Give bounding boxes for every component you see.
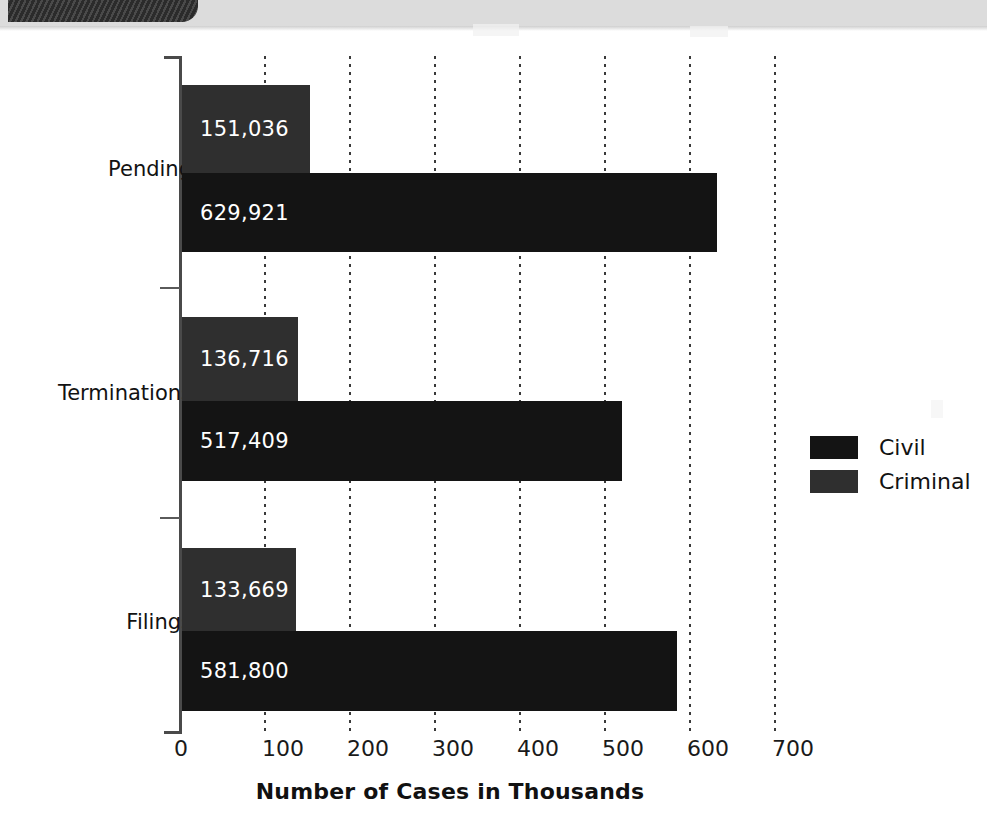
bar-value-label: 136,716: [200, 347, 289, 371]
axis-cap-top: [164, 56, 180, 59]
category-separator-tick: [160, 287, 180, 289]
bar-value-label: 133,669: [200, 578, 289, 602]
xtick-label-600: 600: [687, 736, 729, 761]
bar-terminations-civil[interactable]: 517,409: [182, 401, 622, 481]
bar-value-label: 151,036: [200, 117, 289, 141]
bar-value-label: 629,921: [200, 201, 289, 225]
xtick-label-700: 700: [772, 736, 814, 761]
legend-swatch-icon: [810, 470, 858, 493]
xtick-label-200: 200: [347, 736, 389, 761]
bar-terminations-criminal[interactable]: 136,716: [182, 317, 298, 401]
legend-swatch-icon: [810, 436, 858, 459]
xtick-label-400: 400: [517, 736, 559, 761]
axis-cap-bottom: [164, 731, 180, 734]
x-axis-title: Number of Cases in Thousands: [0, 779, 900, 804]
horizontal-bar-chart: Pending 151,036 629,921 Terminations 136…: [0, 0, 987, 834]
xtick-label-100: 100: [262, 736, 304, 761]
gridline-700: [774, 56, 776, 734]
gridline-600: [689, 56, 691, 734]
bar-pending-criminal[interactable]: 151,036: [182, 85, 310, 173]
bar-value-label: 581,800: [200, 659, 289, 683]
category-separator-tick: [160, 517, 180, 519]
legend-label: Civil: [879, 435, 926, 460]
xtick-label-300: 300: [432, 736, 474, 761]
bar-filings-civil[interactable]: 581,800: [182, 631, 677, 711]
legend-label: Criminal: [879, 469, 971, 494]
legend-item-civil[interactable]: Civil: [810, 430, 971, 464]
xtick-label-500: 500: [602, 736, 644, 761]
category-label-terminations: Terminations: [58, 381, 192, 405]
bar-value-label: 517,409: [200, 429, 289, 453]
bar-filings-criminal[interactable]: 133,669: [182, 548, 296, 631]
bar-pending-civil[interactable]: 629,921: [182, 173, 717, 252]
chart-legend: Civil Criminal: [810, 430, 971, 498]
xtick-label-0: 0: [174, 736, 188, 761]
legend-item-criminal[interactable]: Criminal: [810, 464, 971, 498]
category-label-pending: Pending: [108, 157, 192, 181]
